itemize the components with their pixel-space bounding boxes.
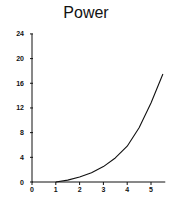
x-tick-label: 5 bbox=[149, 186, 153, 193]
series-line bbox=[56, 74, 163, 182]
x-tick-label: 4 bbox=[125, 186, 129, 193]
y-tick-label: 4 bbox=[20, 154, 24, 161]
y-tick-label: 20 bbox=[16, 55, 24, 62]
x-tick-label: 1 bbox=[54, 186, 58, 193]
x-tick-label: 0 bbox=[30, 186, 34, 193]
y-tick-label: 12 bbox=[16, 104, 24, 111]
power-chart: 04812162024012345 bbox=[0, 0, 172, 200]
y-tick-label: 24 bbox=[16, 30, 24, 37]
y-tick-label: 8 bbox=[20, 129, 24, 136]
y-tick-label: 0 bbox=[20, 179, 24, 186]
y-tick-label: 16 bbox=[16, 80, 24, 87]
x-tick-label: 2 bbox=[78, 186, 82, 193]
x-tick-label: 3 bbox=[101, 186, 105, 193]
